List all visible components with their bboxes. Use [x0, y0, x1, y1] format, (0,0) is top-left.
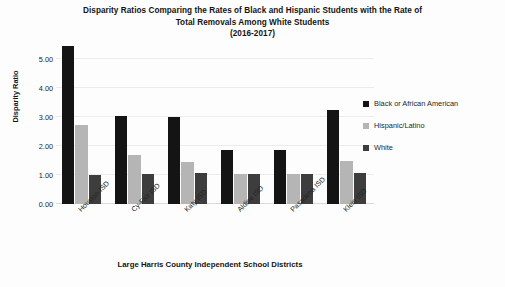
- chart-legend: Black or African AmericanHispanic/Latino…: [363, 99, 503, 165]
- legend-item: Hispanic/Latino: [363, 121, 503, 130]
- y-tick-label-3.00: 3.00: [26, 113, 53, 122]
- bar: [327, 110, 340, 204]
- chart-title-line-2: Total Removals Among White Students: [40, 17, 465, 29]
- legend-swatch-icon: [363, 145, 369, 151]
- x-axis-title: Large Harris County Independent School D…: [40, 260, 380, 269]
- bar: [128, 155, 141, 204]
- legend-label: White: [374, 143, 393, 152]
- y-tick-label-1.00: 1.00: [26, 171, 53, 180]
- legend-item: Black or African American: [363, 99, 503, 108]
- bar: [115, 116, 128, 204]
- legend-label: Hispanic/Latino: [374, 121, 425, 130]
- disparity-ratio-bar-chart: Disparity Ratios Comparing the Rates of …: [0, 0, 505, 287]
- bar: [168, 117, 181, 204]
- bar-group: [56, 42, 109, 204]
- bar: [274, 150, 287, 204]
- legend-swatch-icon: [363, 101, 369, 107]
- legend-swatch-icon: [363, 123, 369, 129]
- chart-title: Disparity Ratios Comparing the Rates of …: [40, 5, 465, 40]
- bar: [62, 46, 75, 204]
- bar: [221, 150, 234, 204]
- bar-group: [162, 42, 215, 204]
- y-tick-label-2.00: 2.00: [26, 142, 53, 151]
- chart-title-line-3: (2016-2017): [40, 28, 465, 40]
- bar-group: [215, 42, 268, 204]
- y-axis-title: Disparity Ratio: [11, 59, 20, 135]
- legend-item: White: [363, 143, 503, 152]
- y-tick-label-5.00: 5.00: [26, 55, 53, 64]
- bar: [75, 125, 88, 204]
- y-tick-label-4.00: 4.00: [26, 84, 53, 93]
- y-tick-label-0.00: 0.00: [26, 200, 53, 209]
- legend-label: Black or African American: [374, 99, 458, 108]
- y-axis-tick-labels: 0.001.002.003.004.005.00: [26, 42, 53, 204]
- bar-group: [109, 42, 162, 204]
- chart-title-line-1: Disparity Ratios Comparing the Rates of …: [40, 5, 465, 17]
- bar-group: [268, 42, 321, 204]
